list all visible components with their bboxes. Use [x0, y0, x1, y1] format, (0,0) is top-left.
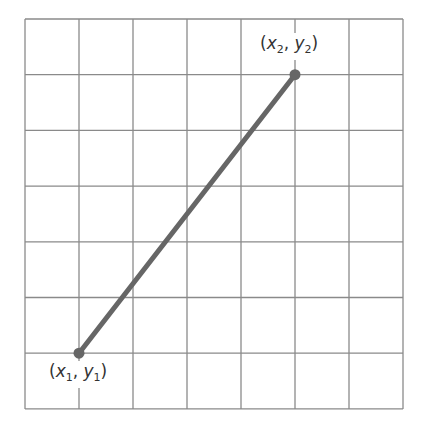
var-x: x — [267, 33, 277, 53]
paren-close: ) — [101, 361, 108, 381]
paren-open: ( — [49, 361, 56, 381]
subscript: 2 — [277, 43, 284, 56]
var-x: x — [56, 361, 66, 381]
subscript: 1 — [94, 371, 101, 384]
point-p2 — [290, 69, 301, 80]
subscript: 2 — [305, 43, 312, 56]
point-label-p2: (x2, y2) — [258, 33, 320, 60]
separator: , — [284, 33, 295, 53]
point-p1 — [74, 348, 85, 359]
var-y: y — [295, 33, 305, 53]
paren-close: ) — [312, 33, 319, 53]
point-label-p1: (x1, y1) — [47, 361, 109, 388]
paren-open: ( — [260, 33, 267, 53]
separator: , — [73, 361, 84, 381]
var-y: y — [84, 361, 94, 381]
subscript: 1 — [66, 371, 73, 384]
